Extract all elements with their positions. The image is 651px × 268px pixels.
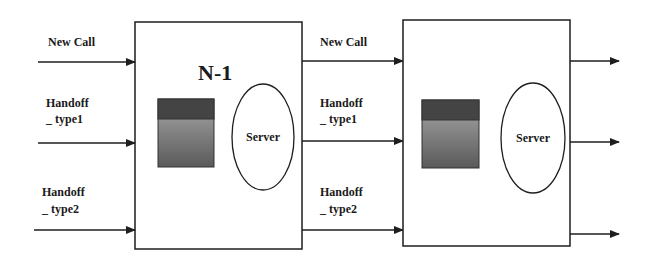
queue-buffer bbox=[422, 100, 479, 168]
cell-title: N-1 bbox=[198, 60, 232, 85]
input-label-handoff2-sub: _ type2 bbox=[319, 202, 357, 216]
input-label-handoff1: Handoff bbox=[320, 96, 364, 110]
input-label-handoff1-sub: _ type1 bbox=[319, 112, 357, 126]
input-label-new-call: New Call bbox=[320, 35, 368, 49]
input-label-handoff2-sub: _ type2 bbox=[41, 202, 79, 216]
server-node: Server bbox=[232, 84, 294, 190]
input-label-handoff1-sub: _ type1 bbox=[45, 112, 83, 126]
server-label: Server bbox=[516, 131, 551, 145]
cell2-outputs bbox=[570, 61, 619, 234]
server-node: Server bbox=[501, 83, 565, 193]
input-label-handoff2: Handoff bbox=[320, 185, 364, 199]
input-label-handoff2: Handoff bbox=[42, 185, 86, 199]
queue-buffer bbox=[158, 99, 214, 167]
input-label-handoff1: Handoff bbox=[46, 96, 90, 110]
server-label: Server bbox=[246, 130, 281, 144]
queueing-diagram: N-1 Server New Call Handoff _ type1 Hand… bbox=[0, 0, 651, 268]
cell1-inputs: New Call Handoff _ type1 Handoff _ type2 bbox=[34, 35, 135, 230]
cell-n: Server bbox=[403, 20, 570, 246]
input-label-new-call: New Call bbox=[48, 35, 96, 49]
cell2-inputs: New Call Handoff _ type1 Handoff _ type2 bbox=[302, 35, 403, 230]
cell-n-1: N-1 Server bbox=[135, 22, 302, 249]
